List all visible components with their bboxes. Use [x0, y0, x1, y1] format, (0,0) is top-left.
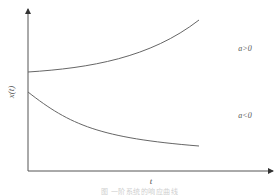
x-axis-label: t	[150, 176, 153, 186]
chart-figure: x(t) t a>0 a<0	[0, 0, 279, 195]
curve-a-positive	[28, 20, 199, 72]
label-a-negative: a<0	[238, 111, 251, 120]
curve-a-negative	[28, 92, 199, 146]
y-axis-label: x(t)	[6, 86, 16, 100]
figure-caption: 图 一阶系统的响应曲线	[0, 186, 279, 195]
label-a-positive: a>0	[238, 44, 251, 53]
